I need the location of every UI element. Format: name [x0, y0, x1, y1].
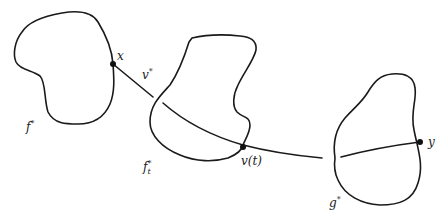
label-v-star-sup: * — [149, 67, 153, 76]
label-x-text: x — [117, 49, 124, 63]
point-y-marker — [417, 139, 423, 145]
label-v-star-text: v — [142, 68, 149, 82]
region-f-t-star-boundary — [150, 35, 256, 161]
point-v-t-marker — [240, 144, 246, 150]
label-g-star-text: g — [329, 196, 337, 210]
label-f-star: f* — [26, 120, 34, 133]
label-g-star: g* — [329, 196, 341, 209]
label-v-t: v(t) — [241, 155, 262, 167]
region-g-star-boundary — [334, 74, 420, 205]
label-f-t-star-sub: t — [147, 167, 150, 176]
path-v-star-segment-3 — [341, 142, 420, 157]
label-v-star: v* — [142, 68, 153, 81]
diagram-canvas: x v* f* f*t v(t) y g* — [0, 0, 446, 222]
diagram-svg — [0, 0, 446, 222]
label-f-star-sup: * — [30, 119, 34, 128]
label-y: y — [428, 136, 435, 148]
point-x-marker — [110, 61, 116, 67]
label-f-t-star: f*t — [143, 160, 151, 176]
label-g-star-sup: * — [337, 195, 341, 204]
label-v-t-text: v(t) — [241, 154, 262, 168]
region-f-star-boundary — [14, 12, 113, 124]
label-x: x — [117, 50, 124, 62]
label-y-text: y — [428, 135, 435, 149]
